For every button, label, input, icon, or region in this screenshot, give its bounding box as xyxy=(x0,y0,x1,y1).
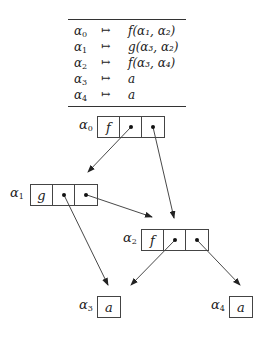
pointer-dot-icon xyxy=(129,125,133,129)
pointer-dot-icon xyxy=(62,193,66,197)
node-a1: g xyxy=(30,184,98,206)
pointer-dot-icon xyxy=(151,125,155,129)
node-label-a1: α1 xyxy=(10,185,24,201)
node-label-a4: α4 xyxy=(211,297,225,313)
node-a2: f xyxy=(141,229,209,251)
node-a4: a xyxy=(229,296,253,318)
node-a3: a xyxy=(97,296,121,318)
pointer-cell xyxy=(142,117,164,137)
constant-cell: a xyxy=(98,297,120,317)
node-label-a0: α0 xyxy=(79,117,93,133)
pointer-dot-icon xyxy=(195,238,199,242)
pointer-cell xyxy=(164,230,186,250)
node-label-a2: α2 xyxy=(123,230,137,246)
node-a0: f xyxy=(97,116,165,138)
pointer-cell xyxy=(120,117,142,137)
functor-cell: f xyxy=(98,117,120,137)
pointer-cell xyxy=(53,185,75,205)
edge-a0-a2 xyxy=(153,127,174,218)
constant-cell: a xyxy=(230,297,252,317)
pointer-dot-icon xyxy=(84,193,88,197)
edge-a1-a3 xyxy=(64,195,108,285)
edge-layer xyxy=(0,0,269,339)
pointer-cell xyxy=(75,185,97,205)
node-label-a3: α3 xyxy=(79,297,93,313)
functor-cell: g xyxy=(31,185,53,205)
pointer-cell xyxy=(186,230,208,250)
pointer-dot-icon xyxy=(173,238,177,242)
functor-cell: f xyxy=(142,230,164,250)
